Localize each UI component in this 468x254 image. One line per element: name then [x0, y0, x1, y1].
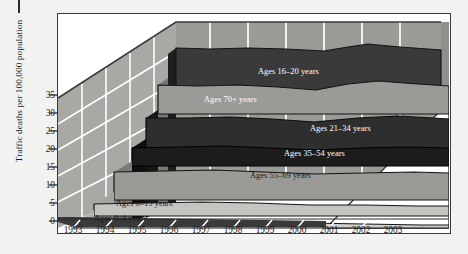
x-tick-1998: 1998: [215, 225, 251, 235]
band-label-ages-55-69: Ages 55–69 years: [250, 171, 311, 180]
band-ages-21-34-surface: [146, 116, 449, 150]
y-tick-0: 0: [29, 216, 55, 226]
figure-canvas: Ages 16–20 years Ages 70+ years Ages 21–…: [0, 0, 468, 254]
y-tick-15: 15: [29, 162, 55, 172]
band-label-ages-21-34: Ages 21–34 years: [310, 124, 371, 133]
band-label-ages-16-20: Ages 16–20 years: [258, 67, 319, 76]
x-tick-2000: 2000: [279, 225, 315, 235]
y-tick-35: 35: [29, 90, 55, 100]
band-label-ages-0-4: Ages 0–4 years: [94, 214, 146, 223]
y-tick-10: 10: [29, 180, 55, 190]
x-tick-2001: 2001: [311, 225, 347, 235]
x-tick-1999: 1999: [247, 225, 283, 235]
band-label-ages-6-15: Ages 6–15 years: [116, 199, 173, 208]
x-tick-1997: 1997: [183, 225, 219, 235]
x-tick-1996: 1996: [151, 225, 187, 235]
x-tick-2003: 2003: [375, 225, 411, 235]
x-tick-1993: 1993: [55, 225, 91, 235]
y-tick-5: 5: [29, 198, 55, 208]
x-tick-1994: 1994: [87, 225, 123, 235]
y-axis-title: Traffic deaths per 100,000 population: [14, 0, 24, 206]
band-label-ages-35-54: Ages 35–54 years: [284, 149, 345, 158]
y-tick-25: 25: [29, 126, 55, 136]
y-tick-20: 20: [29, 144, 55, 154]
x-tick-1995: 1995: [119, 225, 155, 235]
x-tick-2002: 2002: [343, 225, 379, 235]
band-label-ages-70-plus: Ages 70+ years: [204, 95, 257, 104]
plot-frame: Ages 16–20 years Ages 70+ years Ages 21–…: [57, 13, 451, 234]
y-tick-30: 30: [29, 108, 55, 118]
